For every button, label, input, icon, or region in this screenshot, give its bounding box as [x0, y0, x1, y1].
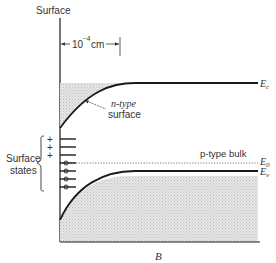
dimension-marker: 10 −4 cm: [61, 35, 120, 56]
figure-caption: B: [155, 250, 162, 262]
conduction-band-label: Ec: [259, 78, 270, 91]
n-type-label: n-type: [111, 98, 137, 109]
valence-band-shading: [60, 176, 258, 242]
surface-state-levels: [60, 139, 76, 189]
annotation-arrowhead: [85, 101, 89, 104]
surface-label: surface: [108, 109, 141, 120]
dimension-label-exponent: −4: [83, 35, 91, 42]
plus-sign-icon: +: [47, 150, 53, 161]
band-diagram: Surface 10 −4 cm Ec n-type surface p-typ…: [0, 0, 276, 263]
dimension-label-base: 10: [72, 39, 84, 50]
surface-states-label-line2: states: [10, 165, 37, 176]
surface-states-label-line1: Surface: [6, 153, 41, 164]
annotation-leader-line: [86, 101, 106, 109]
p-type-bulk-label: p-type bulk: [200, 148, 247, 159]
dimension-label-unit: cm: [91, 39, 104, 50]
surface-axis-label: Surface: [36, 5, 71, 16]
